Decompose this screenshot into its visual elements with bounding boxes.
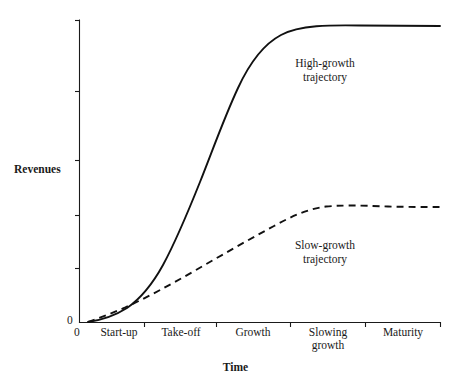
- x-category-growth: Growth: [218, 326, 288, 339]
- high-growth-label-line2: trajectory: [265, 70, 385, 84]
- x-category-startup: Start-up: [84, 326, 154, 339]
- high-growth-curve: [88, 25, 440, 322]
- high-growth-trajectory-label: High-growth trajectory: [265, 56, 385, 84]
- y-axis-title: Revenues: [14, 163, 61, 176]
- slow-growth-trajectory-label: Slow-growth trajectory: [265, 238, 385, 266]
- slow-growth-label-line2: trajectory: [265, 252, 385, 266]
- high-growth-label-line1: High-growth: [265, 56, 385, 70]
- x-axis-title: Time: [0, 361, 471, 374]
- x-category-growth-line1: Growth: [218, 326, 288, 339]
- x-category-startup-line1: Start-up: [84, 326, 154, 339]
- y-axis-ticks: [75, 21, 80, 269]
- x-category-slowing-growth: Slowing growth: [293, 326, 363, 352]
- y-axis-zero-label: 0: [67, 314, 73, 327]
- x-category-slowing-line2: growth: [293, 339, 363, 352]
- x-category-maturity: Maturity: [368, 326, 438, 339]
- slow-growth-label-line1: Slow-growth: [265, 238, 385, 252]
- x-category-takeoff: Take-off: [146, 326, 216, 339]
- x-category-slowing-line1: Slowing: [293, 326, 363, 339]
- slow-growth-curve: [88, 205, 440, 322]
- x-axis-zero-label: 0: [74, 326, 80, 339]
- x-category-maturity-line1: Maturity: [368, 326, 438, 339]
- x-category-takeoff-line1: Take-off: [146, 326, 216, 339]
- revenue-trajectory-chart: Revenues Time 0 0 Start-up Take-off Grow…: [0, 0, 471, 388]
